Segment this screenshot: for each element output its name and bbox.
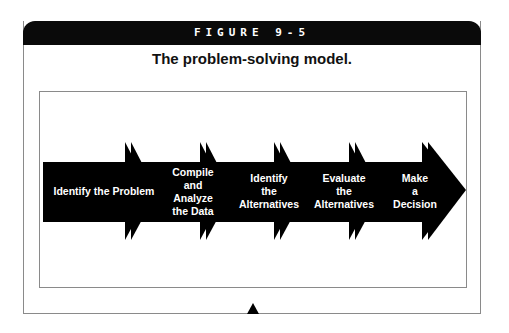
step-evaluate-alternatives: Evaluate the Alternatives — [307, 172, 381, 211]
step-identify-alternatives: Identify the Alternatives — [232, 172, 306, 211]
triangle-marker-icon — [247, 303, 259, 314]
step-make-decision: Make a Decision — [385, 172, 445, 211]
step-identify-problem: Identify the Problem — [48, 185, 160, 198]
process-arrow — [0, 0, 509, 333]
step-compile-analyze: Compile and Analyze the Data — [158, 166, 228, 218]
